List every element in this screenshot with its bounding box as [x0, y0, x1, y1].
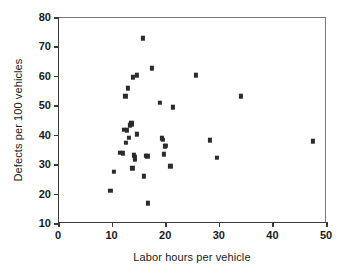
data-point [141, 36, 145, 41]
y-tick-label: 40 [11, 129, 51, 141]
data-point [164, 143, 168, 148]
x-tick-mark [58, 222, 60, 227]
x-tick-mark [272, 222, 274, 227]
data-points-layer [59, 18, 325, 222]
data-point [127, 135, 131, 140]
data-point [126, 86, 130, 91]
data-point [133, 158, 137, 163]
data-point [161, 137, 165, 142]
data-point [145, 154, 149, 159]
data-point [214, 155, 218, 160]
data-point [158, 100, 162, 105]
y-tick-label: 80 [11, 11, 51, 23]
y-tick-mark [54, 76, 59, 78]
data-point [124, 128, 128, 133]
data-point [168, 164, 172, 169]
data-point [146, 201, 150, 206]
data-point [124, 140, 128, 145]
data-point [135, 73, 139, 78]
y-tick-mark [54, 17, 59, 19]
y-tick-label: 30 [11, 158, 51, 170]
data-point [239, 94, 243, 99]
y-tick-mark [54, 164, 59, 166]
y-axis-label: Defects per 100 vehicles [12, 0, 28, 240]
data-point [208, 138, 212, 143]
plot-area [58, 17, 326, 223]
data-point [142, 174, 146, 179]
y-tick-label: 10 [11, 217, 51, 229]
data-point [194, 73, 198, 78]
x-axis-label: Labor hours per vehicle [58, 251, 326, 263]
data-point [130, 122, 134, 127]
x-tick-label: 20 [145, 229, 185, 241]
x-tick-label: 50 [306, 229, 346, 241]
y-tick-mark [54, 194, 59, 196]
x-tick-mark [112, 222, 114, 227]
x-tick-label: 40 [252, 229, 292, 241]
x-tick-mark [326, 222, 328, 227]
x-tick-mark [165, 222, 167, 227]
data-point [135, 132, 139, 137]
data-point [161, 152, 165, 157]
y-tick-label: 50 [11, 99, 51, 111]
y-tick-mark [54, 46, 59, 48]
data-point [112, 169, 116, 174]
x-tick-label: 30 [199, 229, 239, 241]
x-tick-mark [219, 222, 221, 227]
data-point [311, 139, 315, 144]
y-tick-label: 60 [11, 70, 51, 82]
data-point [121, 151, 125, 156]
y-tick-mark [54, 105, 59, 107]
data-point [108, 188, 112, 193]
y-tick-label: 20 [11, 188, 51, 200]
data-point [171, 105, 175, 110]
y-tick-mark [54, 135, 59, 137]
scatter-plot-figure: Defects per 100 vehicles 102030405060708… [0, 0, 350, 275]
x-tick-label: 10 [92, 229, 132, 241]
y-tick-label: 70 [11, 40, 51, 52]
data-point [130, 166, 134, 171]
x-tick-label: 0 [38, 229, 78, 241]
data-point [123, 94, 127, 99]
data-point [150, 66, 154, 71]
